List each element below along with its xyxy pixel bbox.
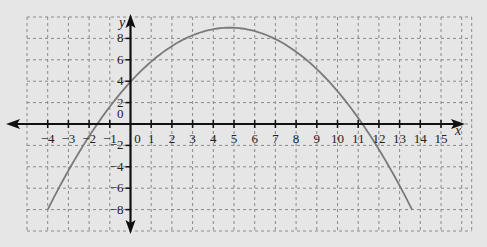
x-tick-label: 8 <box>293 131 300 146</box>
x-tick-label: 11 <box>352 131 365 146</box>
y-tick-label: −2 <box>110 137 124 152</box>
x-tick-label: −3 <box>61 131 75 146</box>
axes <box>6 14 465 234</box>
y-tick-label: 8 <box>117 30 124 45</box>
y-tick-label: −8 <box>110 202 124 217</box>
y-tick-label: 4 <box>117 73 124 88</box>
x-tick-label: 15 <box>435 131 448 146</box>
x-tick-label: 14 <box>414 131 428 146</box>
x-tick-label: −2 <box>82 131 96 146</box>
y-tick-label: −6 <box>110 180 124 195</box>
y-tick-label: 2 <box>117 95 124 110</box>
x-tick-label: 1 <box>148 131 155 146</box>
y-axis-label: y <box>117 15 126 30</box>
x-tick-label: 13 <box>393 131 406 146</box>
x-tick-label: 0 <box>134 131 141 146</box>
x-tick-label: −4 <box>41 131 55 146</box>
x-axis-label: x <box>454 123 462 138</box>
x-tick-label: 9 <box>314 131 321 146</box>
y-tick-label: −4 <box>110 159 124 174</box>
x-tick-label: 4 <box>210 131 217 146</box>
parabola-line <box>48 28 412 210</box>
x-tick-label: 2 <box>169 131 176 146</box>
x-tick-label: 10 <box>331 131 344 146</box>
x-tick-label: 3 <box>189 131 196 146</box>
x-tick-label: 7 <box>272 131 279 146</box>
parabola-curve <box>48 28 412 210</box>
x-tick-label: 5 <box>231 131 238 146</box>
parabola-chart: −4−3−2−10123456789101112131415 −8−6−4−20… <box>0 0 487 247</box>
x-tick-label: 6 <box>251 131 258 146</box>
x-tick-label: 12 <box>372 131 385 146</box>
y-tick-label: 6 <box>117 52 124 67</box>
